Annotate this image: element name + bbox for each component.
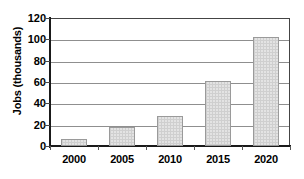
- x-tick-mark: [242, 146, 243, 150]
- y-axis-tick-labels: 020406080100120: [18, 0, 46, 179]
- bar-2020: [253, 37, 279, 146]
- bar-series: [50, 18, 290, 146]
- y-tick-label: 100: [18, 34, 46, 44]
- bar-2000: [61, 139, 87, 146]
- y-tick-mark: [44, 125, 50, 126]
- y-tick-mark: [44, 61, 50, 62]
- x-tick-mark: [194, 146, 195, 150]
- y-tick-mark: [44, 146, 50, 147]
- x-tick-mark: [50, 146, 51, 150]
- y-tick-label: 20: [18, 120, 46, 130]
- bar-slot: [146, 18, 194, 146]
- x-axis-tick-labels: 20002005201020152020: [50, 153, 290, 171]
- bar-slot: [242, 18, 290, 146]
- x-axis-tick-marks: [50, 146, 290, 151]
- bar-chart: Jobs (thousands) 020406080100120 2000200…: [0, 0, 304, 179]
- bar-2015: [205, 81, 231, 146]
- y-tick-label: 120: [18, 13, 46, 23]
- y-tick-mark: [44, 82, 50, 83]
- bar-slot: [50, 18, 98, 146]
- x-tick-label: 2000: [50, 153, 98, 171]
- y-tick-label: 40: [18, 98, 46, 108]
- y-tick-label: 60: [18, 77, 46, 87]
- bar-2010: [157, 116, 183, 146]
- x-tick-mark: [290, 146, 291, 150]
- bar-slot: [194, 18, 242, 146]
- x-tick-mark: [146, 146, 147, 150]
- x-tick-mark: [98, 146, 99, 150]
- y-tick-mark: [44, 103, 50, 104]
- x-tick-label: 2005: [98, 153, 146, 171]
- x-tick-label: 2010: [146, 153, 194, 171]
- y-tick-mark: [44, 18, 50, 19]
- x-tick-label: 2015: [194, 153, 242, 171]
- y-tick-label: 80: [18, 56, 46, 66]
- bar-slot: [98, 18, 146, 146]
- y-tick-label: 0: [18, 141, 46, 151]
- bar-2005: [109, 127, 135, 146]
- x-tick-label: 2020: [242, 153, 290, 171]
- y-tick-mark: [44, 39, 50, 40]
